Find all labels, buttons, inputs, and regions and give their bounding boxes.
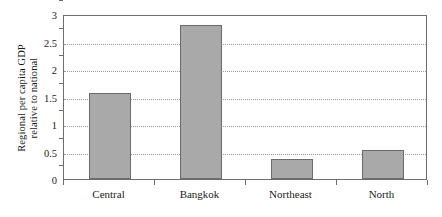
bar-slot (64, 16, 155, 179)
y-tick-label: 0.5 (27, 147, 57, 158)
y-tick-label: 1.5 (27, 92, 57, 103)
y-tick-mark (59, 138, 63, 139)
y-tick-mark (59, 28, 63, 29)
x-tick-mark (154, 180, 155, 185)
x-tick-mark (427, 180, 428, 185)
bar-bangkok (180, 25, 222, 179)
y-tick-mark (59, 165, 63, 166)
bar-central (89, 93, 131, 179)
y-tick-label: 2 (27, 65, 57, 76)
bar-chart: Regional per capita GDP relative to nati… (0, 0, 442, 217)
y-tick-label: 0 (27, 175, 57, 186)
bar-north (362, 150, 404, 179)
x-tick-label-northeast: Northeast (269, 188, 312, 200)
x-tick-mark (245, 180, 246, 185)
x-tick-label-north: North (369, 188, 395, 200)
x-tick-label-bangkok: Bangkok (180, 188, 220, 200)
y-tick-mark (59, 55, 63, 56)
bars-layer (64, 16, 426, 179)
y-tick-mark (59, 83, 63, 84)
bar-slot (155, 16, 246, 179)
y-tick-label: 2.5 (27, 37, 57, 48)
bar-slot (246, 16, 337, 179)
bar-northeast (271, 159, 313, 179)
plot-area (63, 15, 427, 180)
x-tick-label-central: Central (92, 188, 124, 200)
x-tick-mark (336, 180, 337, 185)
y-tick-mark (59, 110, 63, 111)
x-tick-mark (63, 180, 64, 185)
bar-slot (337, 16, 428, 179)
y-tick-label: 1 (27, 120, 57, 131)
y-tick-mark (59, 0, 63, 1)
y-tick-label: 3 (27, 10, 57, 21)
